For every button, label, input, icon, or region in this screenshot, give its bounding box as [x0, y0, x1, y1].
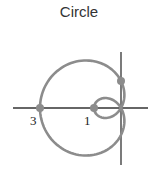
- point-marker: [117, 77, 125, 85]
- point-marker: [90, 104, 98, 112]
- tick-labels: 31: [30, 113, 91, 128]
- tick-label-3: 3: [30, 113, 37, 128]
- marked-points: [36, 77, 125, 112]
- tick-label-1: 1: [84, 113, 91, 128]
- polar-plot: 31: [0, 0, 158, 173]
- point-marker: [36, 104, 44, 112]
